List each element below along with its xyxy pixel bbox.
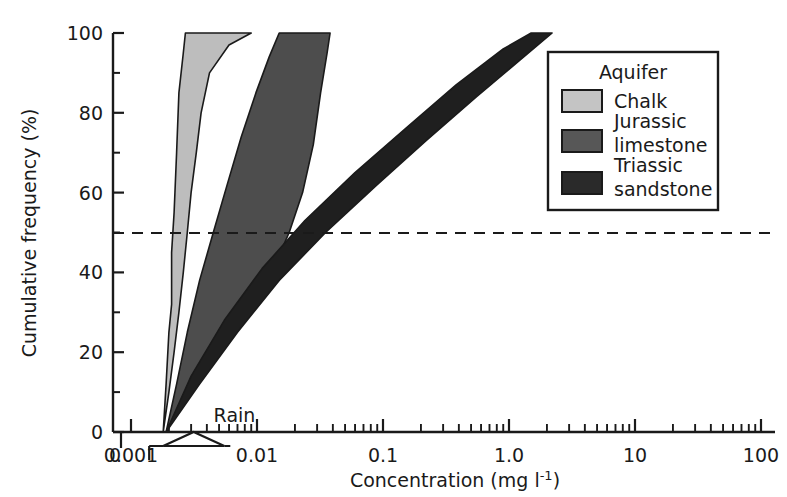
x-axis-title-superscript: -1 xyxy=(540,468,553,483)
legend-label-jurassic: Jurassic xyxy=(613,110,687,132)
legend-title: Aquifer xyxy=(599,61,667,83)
chart-figure: 020406080100 00.0010.010.11.010100 Cumul… xyxy=(0,0,787,497)
y-tick-label: 80 xyxy=(79,102,103,124)
x-tick-label: 0.1 xyxy=(368,444,398,466)
x-axis-title-tail: ) xyxy=(553,469,560,491)
y-tick-label: 40 xyxy=(79,261,103,283)
y-tick-label: 60 xyxy=(79,182,103,204)
x-tick-label: 100 xyxy=(743,444,779,466)
legend-swatch-chalk[interactable] xyxy=(562,90,602,112)
legend-swatch-triassic-sandstone[interactable] xyxy=(562,172,602,194)
legend-label-sandstone: sandstone xyxy=(614,178,712,200)
x-axis-title: Concentration (mg l-1) xyxy=(350,468,560,491)
cumulative-frequency-chart: 020406080100 00.0010.010.11.010100 Cumul… xyxy=(0,0,787,497)
legend-label-limestone: limestone xyxy=(614,134,707,156)
legend-label-chalk: Chalk xyxy=(614,90,667,112)
x-tick-label: 10 xyxy=(623,444,647,466)
rain-annotation-label: Rain xyxy=(214,404,256,426)
y-tick-label: 0 xyxy=(91,421,103,443)
y-tick-label: 20 xyxy=(79,341,103,363)
x-tick-label: 1.0 xyxy=(494,444,524,466)
aquifer-legend: Aquifer Chalk Jurassic limestone Triassi… xyxy=(548,52,718,210)
y-axis-title: Cumulative frequency (%) xyxy=(18,109,40,358)
y-tick-label: 100 xyxy=(67,22,103,44)
x-axis-title-main: Concentration (mg l xyxy=(350,469,540,491)
legend-label-triassic: Triassic xyxy=(613,154,683,176)
legend-swatch-jurassic-limestone[interactable] xyxy=(562,130,602,152)
x-tick-label: 0.01 xyxy=(236,444,278,466)
